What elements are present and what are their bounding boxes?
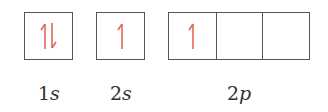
orbital-box-1s: [25, 13, 72, 59]
orbital-1s: [24, 12, 73, 60]
label-2s-letter: s: [122, 82, 132, 104]
orbital-2s: [96, 12, 145, 60]
electron-up-icon: [185, 21, 199, 51]
label-2s-number: 2: [110, 82, 122, 104]
orbital-box-2s: [97, 13, 144, 59]
label-2p-letter: p: [239, 82, 251, 104]
label-1s-letter: s: [50, 82, 60, 104]
label-2p: 2p: [227, 84, 251, 103]
orbital-box-2pz: [262, 13, 309, 59]
label-2p-number: 2: [227, 82, 239, 104]
label-1s: 1s: [38, 84, 60, 103]
orbital-box-2px: [169, 13, 216, 59]
orbital-box-2py: [216, 13, 263, 59]
label-2s: 2s: [110, 84, 132, 103]
electron-up-icon: [114, 21, 128, 51]
label-1s-number: 1: [38, 82, 50, 104]
electron-pair-up-down-icon: [38, 21, 60, 51]
orbital-2p: [168, 12, 310, 60]
